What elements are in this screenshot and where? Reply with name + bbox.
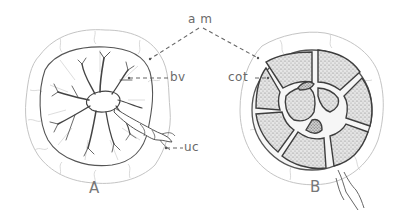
panel-a (26, 30, 176, 184)
label-bv: bv (170, 71, 186, 83)
placenta-diagram: a m bv uc cot A B (0, 0, 395, 216)
label-am: a m (188, 13, 212, 25)
umbilical-cord (114, 108, 172, 142)
leader-am-b (203, 28, 258, 58)
label-cot: cot (228, 71, 248, 83)
label-panel-a: A (89, 181, 100, 196)
leader-am-a (150, 28, 199, 59)
umbilical-cord-b (336, 170, 364, 210)
label-panel-b: B (310, 180, 321, 195)
label-uc: uc (184, 141, 199, 153)
